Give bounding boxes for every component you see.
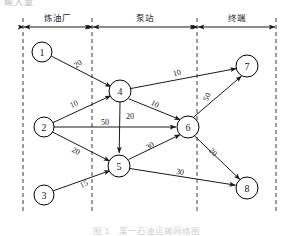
node-3-label: 3: [42, 190, 47, 201]
edge-2-5: [53, 132, 110, 161]
node-5-label: 5: [117, 161, 122, 172]
nodes: 1 2 3 4 5 6 7: [32, 42, 258, 205]
zone-span-arrows: [24, 25, 275, 30]
figure-caption: 图 1 某一石油运输网络图: [0, 226, 293, 236]
edge-weight-2-5: 20: [70, 145, 81, 157]
edge-1-4: [51, 56, 111, 87]
edge-4-5: [119, 102, 120, 153]
edge-weight-3-5: 15: [79, 178, 90, 189]
node-1[interactable]: 1: [32, 42, 52, 62]
node-8-label: 8: [245, 183, 250, 194]
zone-label-pump-station: 泵站: [136, 13, 154, 23]
edge-weight-5-8: 30: [175, 167, 184, 177]
edge-weight-6-8: 20: [207, 146, 219, 158]
zone-label-terminal: 终端: [228, 13, 246, 23]
edge-weight-2-6: 50: [101, 118, 109, 127]
node-1-label: 1: [40, 47, 45, 58]
zone-labels: 炼油厂 泵站 终端: [44, 13, 246, 23]
node-4-label: 4: [118, 86, 123, 97]
edge-weight-2-4: 10: [68, 98, 79, 110]
figure-container: 输入量 炼油厂: [0, 0, 293, 236]
node-6-label: 6: [186, 122, 191, 133]
node-5[interactable]: 5: [108, 155, 130, 177]
node-4[interactable]: 4: [109, 80, 131, 102]
edge-4-7: [131, 69, 237, 89]
edges: [51, 56, 241, 191]
node-2-label: 2: [42, 122, 47, 133]
zone-label-refinery: 炼油厂: [44, 13, 71, 23]
edge-weight-6-7: 50: [201, 91, 213, 102]
node-3[interactable]: 3: [34, 185, 54, 205]
edge-6-7: [193, 76, 241, 117]
node-7[interactable]: 7: [236, 55, 258, 77]
edge-6-8: [194, 136, 240, 180]
edge-weight-4-5: 20: [126, 112, 134, 121]
node-8[interactable]: 8: [236, 177, 258, 199]
node-7-label: 7: [245, 61, 250, 72]
node-6[interactable]: 6: [177, 116, 199, 138]
pipeline-network-diagram: 炼油厂 泵站 终端 20 10 50 20 15 10 10: [0, 0, 293, 236]
edge-weight-5-6: 30: [144, 140, 156, 152]
node-2[interactable]: 2: [34, 117, 54, 137]
edge-weight-4-7: 10: [172, 68, 182, 79]
